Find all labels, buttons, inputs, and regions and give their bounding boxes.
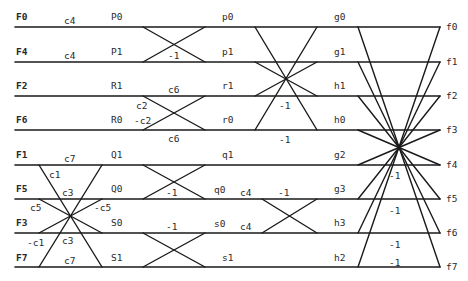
output-label: f4 (446, 160, 457, 170)
coefficient-label: c3 (62, 188, 73, 198)
stage2-node-label: r1 (222, 81, 233, 91)
stage3-node-label: h1 (334, 81, 345, 91)
input-label: F5 (16, 184, 27, 194)
input-label: F2 (16, 81, 27, 91)
rails (15, 27, 440, 267)
stage1-node-label: P0 (111, 12, 122, 22)
stage1-node-label: S0 (111, 218, 122, 228)
output-label: f1 (446, 57, 457, 67)
stage1-node-label: Q1 (111, 150, 122, 160)
negation-label: -1 (389, 171, 400, 181)
coefficient-label: c4 (240, 188, 251, 198)
input-label: F1 (16, 150, 27, 160)
coefficient-label: -c5 (94, 203, 111, 213)
input-label: F4 (16, 47, 27, 57)
stage3-node-label: g1 (334, 47, 345, 57)
input-label: F3 (16, 218, 27, 228)
odd-input-lattice (39, 165, 102, 267)
stage3-node-label: g0 (334, 12, 345, 22)
stage1-node-label: S1 (111, 253, 122, 263)
stage1-node-label: P1 (111, 47, 122, 57)
stage2-node-label: p0 (222, 12, 233, 22)
negation-label: -1 (279, 135, 290, 145)
negation-label: -1 (279, 101, 290, 111)
stage2-node-label: p1 (222, 47, 233, 57)
output-label: f3 (446, 125, 457, 135)
coefficient-label: c4 (64, 51, 75, 61)
stage2-node-label: s0 (214, 219, 225, 229)
negation-label: -1 (389, 240, 400, 250)
stage1-node-label: R1 (111, 81, 122, 91)
input-label: F6 (16, 115, 27, 125)
negation-label: -1 (389, 258, 400, 268)
stage2-node-label: q0 (214, 185, 225, 195)
coefficient-label: c3 (62, 236, 73, 246)
output-combine (358, 27, 440, 267)
coefficient-label: c6 (168, 85, 179, 95)
stage3-node-label: h2 (334, 253, 345, 263)
stage3-node-label: h3 (334, 218, 345, 228)
stage1-node-label: Q0 (111, 184, 122, 194)
stage2-node-label: q1 (222, 150, 233, 160)
stage3-node-label: g3 (334, 184, 345, 194)
stage3-node-label: g2 (334, 150, 345, 160)
coefficient-label: c4 (64, 16, 75, 26)
output-label: f7 (446, 262, 457, 272)
input-label: F0 (16, 12, 27, 22)
coefficient-label: c1 (49, 170, 60, 180)
coefficient-label: c7 (64, 154, 75, 164)
coefficient-label: c5 (30, 203, 41, 213)
stage2-node-label: s1 (222, 253, 233, 263)
stage3-node-label: h0 (334, 115, 345, 125)
coefficient-label: -c1 (27, 238, 44, 248)
output-label: f6 (446, 228, 457, 238)
coefficient-label: c4 (240, 222, 251, 232)
output-label: f5 (446, 194, 457, 204)
stage1-node-label: R0 (111, 115, 122, 125)
negation-label: -1 (278, 188, 289, 198)
output-label: f0 (446, 22, 457, 32)
coefficient-label: -c2 (134, 116, 151, 126)
negation-label: -1 (166, 188, 177, 198)
input-label: F7 (16, 253, 27, 263)
coefficient-label: c7 (64, 256, 75, 266)
negation-label: -1 (389, 206, 400, 216)
coefficient-label: c6 (168, 134, 179, 144)
dct-flow-diagram: F0 F4 F2 F6 F1 F5 F3 F7 P0 P1 R1 R0 Q1 Q… (0, 0, 468, 281)
output-label: f2 (446, 91, 457, 101)
negation-label: -1 (168, 51, 179, 61)
coefficient-label: c2 (136, 101, 147, 111)
negation-label: -1 (166, 222, 177, 232)
stage2-node-label: r0 (222, 115, 233, 125)
